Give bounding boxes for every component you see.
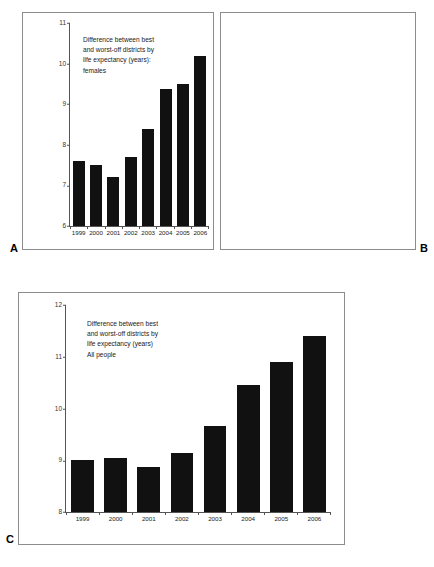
plot-area-a: 19992000200120022003200420052006 6789101… <box>69 23 209 227</box>
x-axis-label: 2005 <box>265 516 298 522</box>
x-axis-labels-a: 19992000200120022003200420052006 <box>70 226 209 236</box>
panel-a: 19992000200120022003200420052006 6789101… <box>22 12 214 250</box>
y-axis-tick-label: 8 <box>46 509 66 516</box>
x-axis-label: 2002 <box>165 516 198 522</box>
y-axis-tick-label: 10 <box>46 405 66 412</box>
panel-letter-a: A <box>10 243 18 254</box>
panel-b: 19992000200120022003200420052006 8910111… <box>220 12 416 250</box>
y-axis-tick-label: 9 <box>46 457 66 464</box>
x-axis-label: 2006 <box>298 516 331 522</box>
bar <box>73 161 85 226</box>
x-axis-label: 2001 <box>132 516 165 522</box>
bar <box>104 458 127 512</box>
x-axis-label: 2004 <box>232 516 265 522</box>
x-axis-label: 2001 <box>105 230 122 236</box>
panel-c: 19992000200120022003200420052006 8910111… <box>18 292 345 545</box>
bar-series-a <box>70 23 209 226</box>
x-axis-label: 2006 <box>192 230 209 236</box>
x-axis-label: 2004 <box>157 230 174 236</box>
bar-series-c <box>66 305 331 512</box>
x-axis-label: 2003 <box>199 516 232 522</box>
y-axis-tick-label: 10 <box>50 60 70 67</box>
bar <box>194 56 206 226</box>
bar <box>171 453 194 513</box>
x-axis-label: 1999 <box>66 516 99 522</box>
bar <box>71 460 94 512</box>
bar <box>107 177 119 226</box>
y-axis-tick-label: 6 <box>50 223 70 230</box>
panel-letter-c: C <box>6 534 14 545</box>
y-axis-tick-label: 7 <box>50 182 70 189</box>
panel-letter-b: B <box>420 243 428 254</box>
y-axis-tick-label: 8 <box>50 142 70 149</box>
bar <box>204 426 227 512</box>
plot-area-c: 19992000200120022003200420052006 8910111… <box>65 305 331 513</box>
y-axis-tick-label: 11 <box>50 20 70 27</box>
axes-c: 19992000200120022003200420052006 8910111… <box>65 305 331 513</box>
bar <box>303 336 326 512</box>
figure-panel-group: 19992000200120022003200420052006 6789101… <box>0 0 434 567</box>
y-axis-tick-label: 12 <box>46 302 66 309</box>
bar <box>160 89 172 226</box>
bar <box>125 157 137 226</box>
bar <box>90 165 102 226</box>
bar <box>237 385 260 512</box>
bar <box>137 467 160 512</box>
x-axis-label: 1999 <box>70 230 87 236</box>
x-axis-labels-c: 19992000200120022003200420052006 <box>66 512 331 522</box>
x-axis-label: 2002 <box>122 230 139 236</box>
x-axis-label: 2005 <box>174 230 191 236</box>
bar <box>142 129 154 226</box>
bar <box>270 362 293 512</box>
bar <box>177 84 189 226</box>
y-axis-tick-label: 11 <box>46 354 66 361</box>
x-axis-label: 2000 <box>99 516 132 522</box>
y-axis-tick-label: 9 <box>50 101 70 108</box>
x-axis-label: 2003 <box>140 230 157 236</box>
axes-a: 19992000200120022003200420052006 6789101… <box>69 23 209 227</box>
x-axis-label: 2000 <box>87 230 104 236</box>
